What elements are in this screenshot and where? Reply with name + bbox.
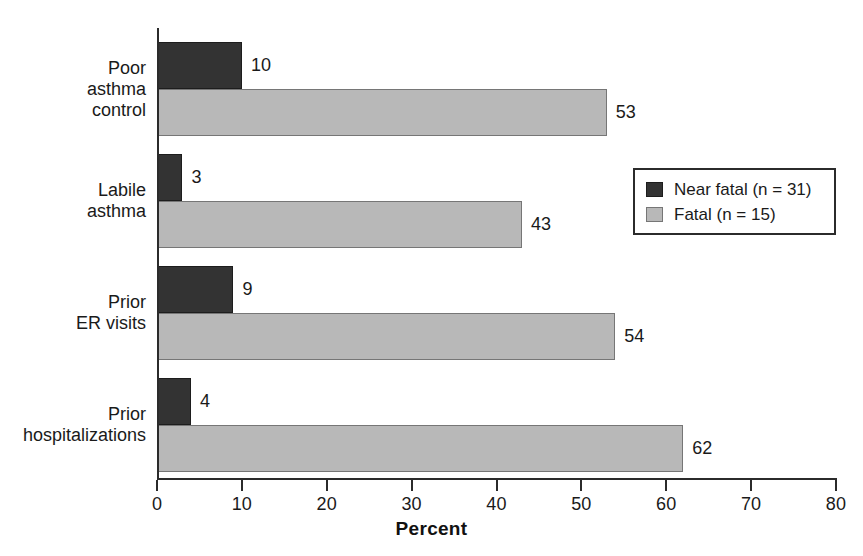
bar-group-prior-er-visits: 954 bbox=[157, 266, 836, 360]
category-label-prior-er-visits: PriorER visits bbox=[0, 292, 157, 334]
bar-prior-hospitalizations-near-fatal bbox=[157, 378, 191, 425]
x-tick-label-30: 30 bbox=[401, 494, 421, 515]
x-tick-80 bbox=[835, 480, 837, 491]
x-tick-20 bbox=[326, 480, 328, 491]
bar-labile-asthma-near-fatal bbox=[157, 154, 182, 201]
chart-legend: Near fatal (n = 31)Fatal (n = 15) bbox=[633, 168, 836, 235]
legend-swatch-fatal bbox=[646, 207, 663, 222]
bar-group-poor-asthma-control: 1053 bbox=[157, 42, 836, 136]
x-axis-title: Percent bbox=[0, 518, 863, 540]
category-label-line: Prior bbox=[0, 292, 146, 313]
x-tick-label-20: 20 bbox=[317, 494, 337, 515]
bar-value-prior-er-visits-fatal: 54 bbox=[615, 313, 644, 360]
category-label-line: Prior bbox=[0, 404, 146, 425]
legend-label-fatal: Fatal (n = 15) bbox=[674, 205, 776, 225]
x-tick-label-60: 60 bbox=[656, 494, 676, 515]
bar-value-prior-hospitalizations-near-fatal: 4 bbox=[191, 378, 210, 425]
category-label-line: ER visits bbox=[0, 313, 146, 334]
category-label-line: Poor bbox=[0, 58, 146, 79]
bar-prior-er-visits-fatal bbox=[157, 313, 615, 360]
category-label-line: hospitalizations bbox=[0, 425, 146, 446]
category-label-line: asthma bbox=[0, 201, 146, 222]
x-tick-label-70: 70 bbox=[741, 494, 761, 515]
bar-poor-asthma-control-fatal bbox=[157, 89, 607, 136]
category-label-line: control bbox=[0, 100, 146, 121]
legend-label-near-fatal: Near fatal (n = 31) bbox=[674, 180, 812, 200]
bar-prior-hospitalizations-fatal bbox=[157, 425, 683, 472]
category-label-line: Labile bbox=[0, 180, 146, 201]
x-tick-50 bbox=[580, 480, 582, 491]
bar-value-poor-asthma-control-near-fatal: 10 bbox=[242, 42, 271, 89]
x-tick-10 bbox=[241, 480, 243, 491]
bar-value-prior-hospitalizations-fatal: 62 bbox=[683, 425, 712, 472]
x-tick-70 bbox=[750, 480, 752, 491]
bar-poor-asthma-control-near-fatal bbox=[157, 42, 242, 89]
plot-area: 1053343954462 bbox=[157, 28, 836, 478]
x-tick-label-50: 50 bbox=[571, 494, 591, 515]
x-tick-label-80: 80 bbox=[826, 494, 846, 515]
bar-value-poor-asthma-control-fatal: 53 bbox=[607, 89, 636, 136]
bar-value-labile-asthma-near-fatal: 3 bbox=[182, 154, 201, 201]
category-label-line: asthma bbox=[0, 79, 146, 100]
y-axis-line bbox=[157, 28, 159, 480]
legend-swatch-near-fatal bbox=[646, 182, 663, 197]
x-tick-label-40: 40 bbox=[486, 494, 506, 515]
bar-group-prior-hospitalizations: 462 bbox=[157, 378, 836, 472]
bar-chart-figure: PoorasthmacontrolLabileasthmaPriorER vis… bbox=[0, 0, 863, 556]
bar-value-labile-asthma-fatal: 43 bbox=[522, 201, 551, 248]
legend-row-fatal: Fatal (n = 15) bbox=[646, 202, 834, 227]
figure-caption bbox=[0, 548, 863, 556]
x-tick-30 bbox=[411, 480, 413, 491]
x-tick-label-0: 0 bbox=[152, 494, 162, 515]
x-tick-60 bbox=[665, 480, 667, 491]
x-tick-0 bbox=[156, 480, 158, 491]
bar-labile-asthma-fatal bbox=[157, 201, 522, 248]
category-label-prior-hospitalizations: Priorhospitalizations bbox=[0, 404, 157, 446]
category-label-poor-asthma-control: Poorasthmacontrol bbox=[0, 58, 157, 121]
bar-prior-er-visits-near-fatal bbox=[157, 266, 233, 313]
category-label-labile-asthma: Labileasthma bbox=[0, 180, 157, 222]
legend-row-near-fatal: Near fatal (n = 31) bbox=[646, 177, 834, 202]
bar-value-prior-er-visits-near-fatal: 9 bbox=[233, 266, 252, 313]
x-tick-label-10: 10 bbox=[232, 494, 252, 515]
x-tick-40 bbox=[496, 480, 498, 491]
